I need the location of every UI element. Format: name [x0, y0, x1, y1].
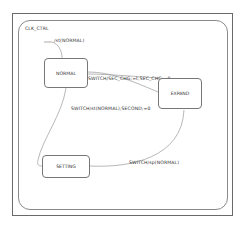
- state-expand-label: EXPAND: [171, 91, 190, 96]
- state-expand[interactable]: EXPAND: [158, 78, 202, 109]
- state-setting[interactable]: SETTING: [42, 155, 90, 178]
- superstate-label: CLK_CTRL: [25, 26, 49, 31]
- transition-label-initial: /st(NORMAL): [54, 38, 84, 43]
- state-setting-label: SETTING: [56, 164, 76, 169]
- transition-label-normal-setting: SWITCH/st(NORMAL);SECOND;=0: [71, 106, 150, 111]
- state-normal[interactable]: NORMAL: [44, 58, 88, 88]
- state-normal-label: NORMAL: [56, 71, 76, 76]
- transition-lines: [0, 0, 245, 226]
- transition-label-setting-expand: SWITCH/sp(NORMAL): [129, 160, 179, 165]
